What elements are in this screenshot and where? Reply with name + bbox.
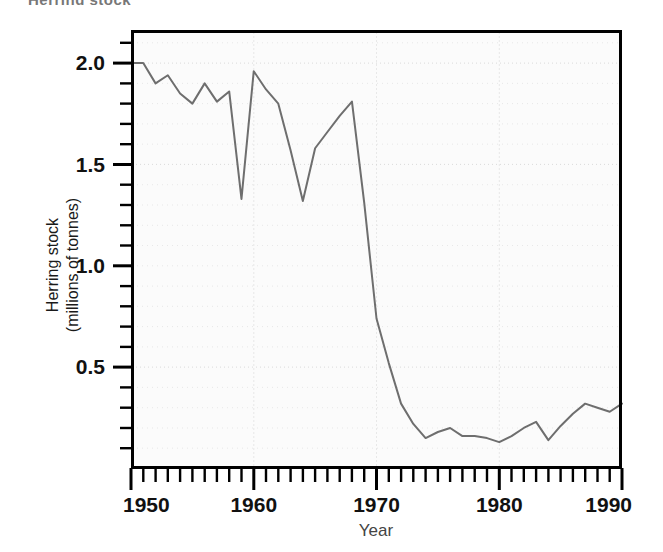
x-tick-label: 1980 bbox=[476, 493, 523, 516]
x-tick-label: 1970 bbox=[353, 493, 400, 516]
x-tick-label: 1990 bbox=[585, 493, 632, 516]
x-tick-label: 1950 bbox=[123, 493, 170, 516]
y-tick-label: 0.5 bbox=[76, 355, 106, 378]
x-axis-title: Year bbox=[359, 521, 394, 540]
chart-svg: 0.51.01.52.0 19501960197019801990 Year H… bbox=[0, 0, 663, 552]
y-axis-title-group: Herring stock (millions of tonnes) bbox=[44, 198, 81, 332]
y-tick-label: 2.0 bbox=[76, 51, 105, 74]
y-tick-label: 1.5 bbox=[76, 153, 106, 176]
x-axis-tick-labels: 19501960197019801990 bbox=[123, 493, 632, 516]
x-tick-label: 1960 bbox=[230, 493, 277, 516]
y-axis-title-line2: (millions of tonnes) bbox=[64, 198, 81, 332]
y-axis-title-line1: Herring stock bbox=[44, 217, 61, 312]
herring-stock-line-chart: 0.51.01.52.0 19501960197019801990 Year H… bbox=[0, 0, 663, 552]
y-axis-minor-ticks bbox=[120, 43, 132, 448]
y-axis-major-ticks bbox=[113, 63, 132, 367]
